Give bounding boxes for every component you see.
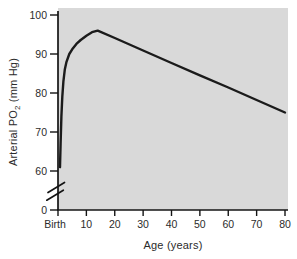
y-tick-label: 100 — [29, 9, 47, 21]
y-tick-label: 60 — [35, 165, 47, 177]
x-tick-label: 50 — [194, 218, 206, 230]
y-axis-title-subscript: 2 — [13, 105, 22, 110]
y-axis-title: Arterial PO2 (mm Hg) — [7, 58, 19, 166]
y-tick-label: 80 — [35, 87, 47, 99]
y-axis-title-text: Arterial PO — [7, 110, 19, 166]
x-tick-label: 20 — [109, 218, 121, 230]
x-tick-label: 30 — [137, 218, 149, 230]
x-tick-label: 60 — [222, 218, 234, 230]
x-tick-label: 70 — [251, 218, 263, 230]
figure-po2-vs-age: 100908070600Birth1020304050607080 Arteri… — [0, 0, 297, 259]
y-tick-label: 0 — [41, 204, 47, 216]
x-tick-label: Birth — [44, 218, 66, 230]
po2-age-chart-canvas: 100908070600Birth1020304050607080 — [0, 0, 297, 259]
x-tick-label: 10 — [81, 218, 93, 230]
y-tick-label: 90 — [35, 48, 47, 60]
x-axis-title: Age (years) — [143, 239, 202, 251]
x-tick-label: 80 — [279, 218, 291, 230]
plot-background — [58, 8, 288, 210]
y-tick-label: 70 — [35, 126, 47, 138]
x-tick-label: 40 — [166, 218, 178, 230]
y-axis-title-units: (mm Hg) — [7, 58, 19, 105]
